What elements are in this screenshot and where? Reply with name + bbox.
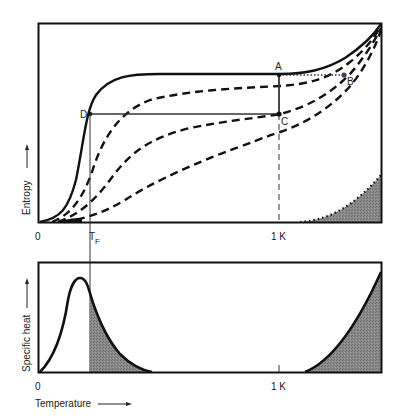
point-a-label: A bbox=[275, 61, 282, 72]
point-c-label: C bbox=[281, 116, 288, 127]
specific-heat-x-tick-1k: 1 K bbox=[271, 381, 286, 392]
specific-heat-x-tick-zero: 0 bbox=[35, 381, 41, 392]
entropy-axis-label: Entropy bbox=[21, 181, 32, 215]
point-d-label: D bbox=[80, 109, 87, 120]
point-b-label: B bbox=[347, 76, 354, 87]
entropy-dashed-curve-3 bbox=[64, 30, 381, 222]
entropy-dashed-curve-2 bbox=[58, 28, 381, 222]
point-b-marker bbox=[341, 72, 346, 77]
specific-heat-axis-label: Specific heat bbox=[21, 315, 32, 372]
entropy-x-tick-tf-subscript: F bbox=[95, 237, 100, 246]
entropy-axis-arrow-icon bbox=[25, 144, 29, 150]
point-a-marker bbox=[277, 73, 281, 77]
temperature-axis-arrow-icon bbox=[126, 402, 132, 406]
entropy-solid-curve bbox=[40, 24, 381, 222]
specific-heat-panel: Specific heat 0 1 K Temperature bbox=[21, 263, 382, 410]
entropy-x-tick-1k: 1 K bbox=[271, 231, 286, 242]
specific-heat-shaded-left bbox=[90, 297, 150, 372]
entropy-x-tick-zero: 0 bbox=[35, 231, 41, 242]
entropy-shaded-region bbox=[300, 175, 381, 222]
specific-heat-shaded-right bbox=[305, 272, 381, 372]
specific-heat-axis-arrow-icon bbox=[25, 278, 29, 284]
temperature-axis-label: Temperature bbox=[35, 398, 92, 409]
entropy-panel: A B C D Entropy 0 T F 1 K bbox=[21, 24, 382, 247]
entropy-specific-heat-diagram: A B C D Entropy 0 T F 1 K Specific heat … bbox=[0, 0, 401, 420]
